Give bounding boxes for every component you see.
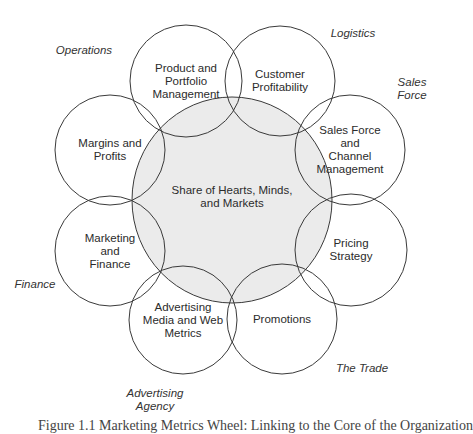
node-label-margins-profits: Margins and Profits xyxy=(78,137,141,163)
stakeholder-finance: Finance xyxy=(15,278,56,291)
node-label-advertising-media: Advertising Media and Web Metrics xyxy=(143,301,223,340)
node-label-sales-force-channel: Sales Force and Channel Management xyxy=(316,124,383,176)
node-label-product-portfolio: Product and Portfolio Management xyxy=(152,62,219,101)
stakeholder-advertising-agency: Advertising Agency xyxy=(127,387,184,413)
node-label-pricing-strategy: Pricing Strategy xyxy=(330,237,373,263)
center-label: Share of Hearts, Minds, and Markets xyxy=(172,184,293,210)
stakeholder-sales-force: Sales Force xyxy=(389,76,435,102)
figure-caption: Figure 1.1 Marketing Metrics Wheel: Link… xyxy=(38,418,473,434)
node-label-customer-profitability: Customer Profitability xyxy=(252,68,308,94)
stakeholder-the-trade: The Trade xyxy=(336,362,388,375)
stakeholder-operations: Operations xyxy=(56,44,112,57)
node-label-promotions: Promotions xyxy=(253,313,311,326)
node-label-marketing-finance: Marketing and Finance xyxy=(85,232,136,271)
stakeholder-logistics: Logistics xyxy=(331,27,376,40)
